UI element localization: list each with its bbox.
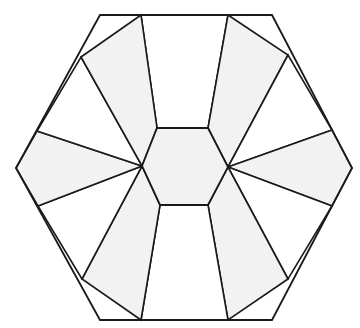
figure-root <box>0 0 360 328</box>
hexagon-dissection-figure <box>0 0 360 328</box>
